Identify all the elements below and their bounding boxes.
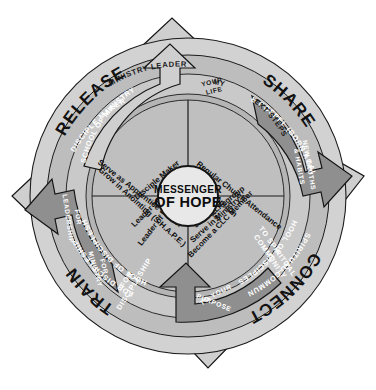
hub-title-line2: OF HOPE — [154, 194, 221, 210]
discipleship-wheel-diagram: SHARE CONNECT TRAIN RELEASE THE GOSPEL (… — [0, 0, 376, 390]
wheel-graphic: SHARE CONNECT TRAIN RELEASE THE GOSPEL (… — [0, 0, 376, 390]
